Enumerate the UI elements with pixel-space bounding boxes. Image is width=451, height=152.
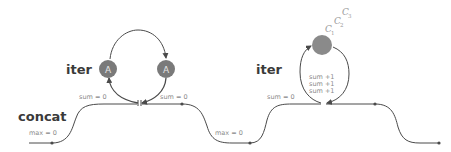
node-a-right-label: A <box>163 65 170 75</box>
node-a-left-label: A <box>105 65 112 75</box>
sum-annotation-right-in: sum = 0 <box>267 93 295 101</box>
iter-label-right: iter <box>256 62 282 77</box>
flow-diagram: A A concat iter iter max = 0 sum = 0 sum… <box>0 0 451 152</box>
sum-annotation-left-out: sum = 0 <box>160 93 188 101</box>
right-loop-node[interactable] <box>312 35 332 55</box>
concat-label: concat <box>18 109 67 124</box>
stack-label-c3-index: 3 <box>348 13 352 19</box>
main-flow-path <box>29 104 439 143</box>
iter-label-left: iter <box>66 62 92 77</box>
stack-label-c1-index: 1 <box>331 30 335 36</box>
node-a-right[interactable]: A <box>157 60 175 78</box>
max-annotation-middle: max = 0 <box>215 129 243 137</box>
stack-label-c2-index: 2 <box>340 22 344 28</box>
sum-increment-3: sum +1 <box>309 87 335 95</box>
stack-label-c3: C 3 <box>342 7 352 19</box>
stack-label-c2: C 2 <box>334 16 344 28</box>
sum-annotation-left-in: sum = 0 <box>79 93 107 101</box>
node-a-left[interactable]: A <box>99 60 117 78</box>
max-annotation-left: max = 0 <box>29 129 57 137</box>
right-loop-node-circle <box>312 35 332 55</box>
